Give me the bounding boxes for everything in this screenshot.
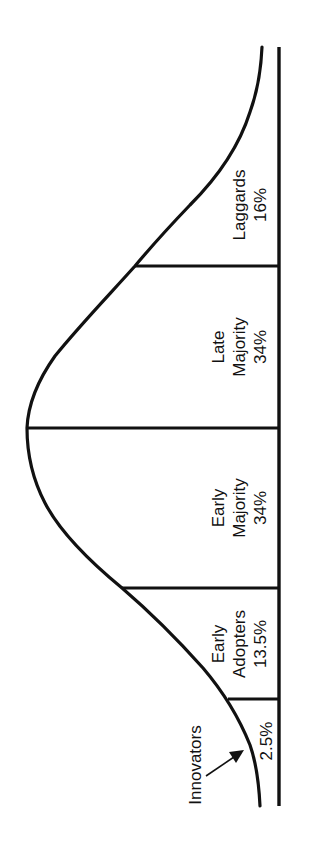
early-majority-line1: Early	[209, 488, 228, 527]
label-early-majority: Early Majority 34%	[209, 478, 270, 538]
late-majority-percent: 34%	[251, 330, 270, 364]
label-innovators-percent: 2.5%	[257, 722, 276, 761]
label-early-adopters: Early Adopters 13.5%	[209, 610, 270, 678]
adoption-curve-diagram: Laggards 16% Late Majority 34% Early Maj…	[0, 0, 314, 858]
innovators-callout-text: Innovators	[186, 725, 205, 804]
label-laggards: Laggards 16%	[230, 170, 270, 241]
label-late-majority: Late Majority 34%	[209, 317, 270, 377]
early-majority-percent: 34%	[251, 491, 270, 525]
late-majority-line1: Late	[209, 330, 228, 363]
innovators-percent: 2.5%	[257, 722, 276, 761]
laggards-percent: 16%	[251, 188, 270, 222]
early-adopters-percent: 13.5%	[251, 620, 270, 668]
label-innovators-callout: Innovators	[186, 725, 205, 804]
laggards-name: Laggards	[230, 170, 249, 241]
late-majority-line2: Majority	[230, 317, 249, 377]
early-majority-line2: Majority	[230, 478, 249, 538]
early-adopters-line2: Adopters	[230, 610, 249, 678]
early-adopters-line1: Early	[209, 624, 228, 663]
arrow-icon	[206, 750, 244, 776]
